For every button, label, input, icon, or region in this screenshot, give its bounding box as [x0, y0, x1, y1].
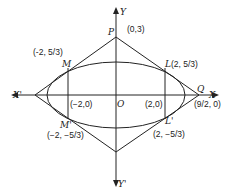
label-y-neg: Y' [118, 179, 126, 189]
label-l-prime-coords: (2, −5/3) [153, 129, 185, 139]
label-m: M [61, 59, 72, 69]
label-l: L [164, 59, 171, 69]
label-p-coords: (0,3) [127, 24, 145, 34]
ellipse-diagram: Y Y' X X' O P (0,3) M (-2, 5/3) L (2, 5/… [0, 0, 233, 191]
label-m-coords: (-2, 5/3) [33, 47, 63, 57]
label-m-prime: M' [59, 120, 72, 130]
label-l-prime: L' [164, 116, 173, 126]
y-axis-arrow-up [113, 7, 119, 14]
label-p: P [107, 27, 115, 37]
label-q-coords: (9/2, 0) [194, 99, 221, 109]
label-y: Y [120, 7, 127, 17]
label-focus-right: (2,0) [145, 99, 163, 109]
label-origin: O [117, 99, 125, 109]
label-m-prime-coords: (−2, −5/3) [47, 130, 84, 140]
label-x-neg: X' [12, 90, 22, 100]
label-q: Q [197, 84, 205, 94]
label-l-coords: (2, 5/3) [171, 59, 198, 69]
label-focus-left: (−2,0) [70, 99, 93, 109]
